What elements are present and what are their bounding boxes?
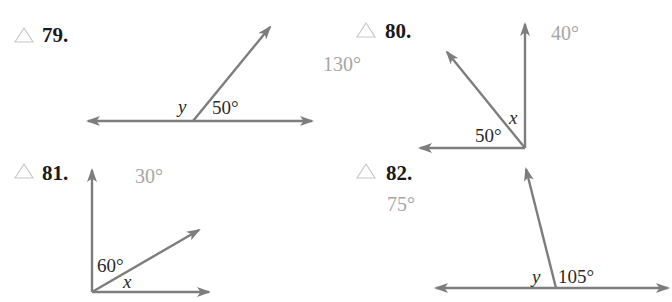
answer: 130° [323, 53, 361, 75]
problem-number: 82. [386, 161, 412, 185]
triangle-icon [357, 23, 375, 37]
angle-label: 50° [475, 125, 502, 146]
problem-79: 79. y 50° 130° [15, 23, 361, 121]
problem-82: 82. y 105° 75° [357, 161, 668, 288]
answer: 30° [135, 165, 163, 187]
angle-label: 60° [97, 255, 124, 276]
triangle-icon [357, 164, 375, 178]
problem-number: 81. [42, 161, 68, 185]
angle-variable: x [508, 107, 518, 128]
answer: 75° [387, 193, 415, 215]
problem-81: 81. 60° x 30° [15, 161, 209, 292]
angle-label: 50° [212, 97, 239, 118]
angle-variable: y [530, 266, 541, 287]
answer: 40° [551, 22, 579, 44]
problem-80: 80. x 50° 40° [357, 19, 579, 148]
angle-label: 105° [558, 266, 594, 287]
triangle-icon [15, 164, 33, 178]
triangle-icon [15, 28, 33, 42]
angle-variable: x [122, 271, 132, 292]
problem-number: 79. [42, 23, 68, 47]
angle-variable: y [176, 96, 187, 117]
problem-number: 80. [385, 19, 411, 43]
ray-diagonal [526, 169, 556, 288]
exercise-sheet: 79. y 50° 130° 80. x 50° 40° 81. 60° x 3… [0, 0, 672, 302]
